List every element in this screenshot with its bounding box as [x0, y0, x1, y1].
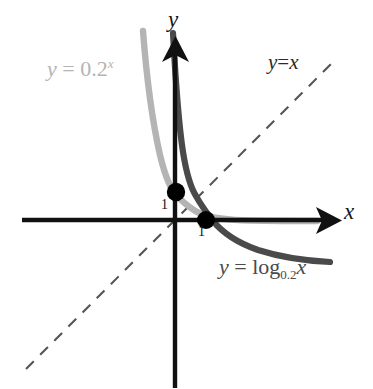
log-label-eq: = log: [229, 254, 281, 279]
logarithmic-curve-label: y = log0.2x: [219, 256, 306, 281]
marker-y-intercept: [167, 183, 185, 201]
exponential-curve-label: y = 0.2x: [47, 57, 113, 80]
identity-label-rhs: x: [289, 50, 298, 74]
identity-label-eq: =: [277, 50, 289, 74]
log-label-base: 0.2: [280, 267, 296, 282]
logarithmic-curve: [173, 33, 330, 262]
function-graph-figure: x y 1 1 y = 0.2x y = log0.2x y=x: [0, 0, 373, 389]
x-axis-tick-label-1: 1: [198, 225, 205, 239]
x-axis-label: x: [344, 200, 354, 223]
log-label-lhs: y: [219, 254, 229, 279]
identity-label-lhs: y: [268, 50, 277, 74]
exp-label-lhs: y: [47, 56, 57, 81]
y-axis-label: y: [168, 8, 178, 31]
identity-line-label: y=x: [268, 52, 299, 73]
log-label-argument: x: [297, 254, 307, 279]
exp-label-exponent: x: [108, 56, 114, 71]
exp-label-eq: = 0.2: [57, 56, 108, 81]
y-axis-tick-label-1: 1: [161, 198, 168, 212]
